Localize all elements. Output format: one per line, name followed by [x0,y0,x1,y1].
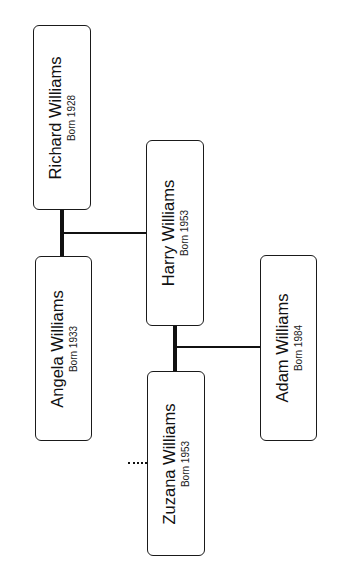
person-born: Born 1933 [67,290,80,407]
marriage-line-harry-zuzana [173,325,177,371]
person-label: Angela Williams Born 1933 [48,290,80,407]
person-name: Richard Williams [46,56,65,179]
person-node-richard[interactable]: Richard Williams Born 1928 [33,25,91,210]
person-born: Born 1953 [178,180,191,286]
person-node-zuzana[interactable]: Zuzana Williams Born 1953 [147,371,205,556]
person-born: Born 1984 [292,293,305,402]
person-label: Harry Williams Born 1953 [159,180,191,286]
person-label: Richard Williams Born 1928 [46,56,78,179]
person-label: Zuzana Williams Born 1953 [160,403,192,524]
person-name: Zuzana Williams [160,403,179,524]
person-node-angela[interactable]: Angela Williams Born 1933 [35,256,92,441]
child-line-to-adam [175,346,260,348]
person-name: Angela Williams [48,290,67,407]
person-label: Adam Williams Born 1984 [273,293,305,402]
person-node-adam[interactable]: Adam Williams Born 1984 [260,255,317,441]
dotted-link-zuzana [128,462,147,464]
person-name: Harry Williams [159,180,178,286]
person-name: Adam Williams [273,293,292,402]
child-line-to-harry [62,232,146,234]
person-born: Born 1953 [179,403,192,524]
person-born: Born 1928 [65,56,78,179]
person-node-harry[interactable]: Harry Williams Born 1953 [146,140,204,326]
